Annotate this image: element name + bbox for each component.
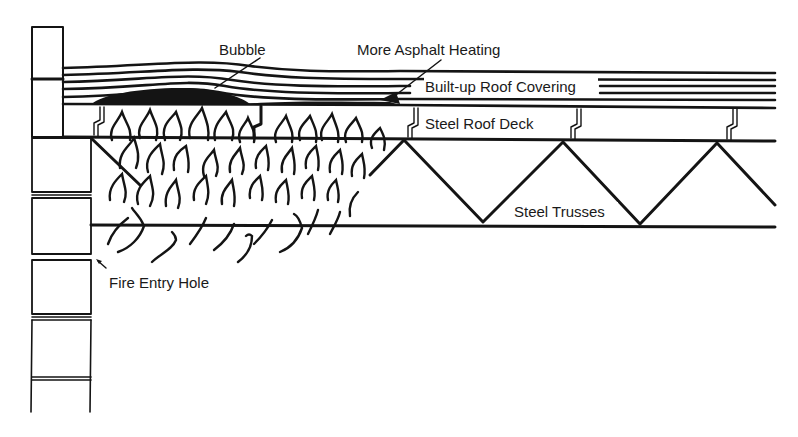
label-steel-roof-deck: Steel Roof Deck (425, 115, 534, 132)
fire-entry-hole (96, 259, 106, 268)
label-more-asphalt-heating: More Asphalt Heating (357, 41, 500, 58)
label-fire-entry-hole: Fire Entry Hole (109, 274, 209, 291)
label-bubble: Bubble (219, 41, 266, 58)
steel-trusses (91, 138, 775, 227)
flames (108, 108, 385, 262)
label-built-up-roof-covering: Built-up Roof Covering (425, 78, 576, 95)
label-steel-trusses: Steel Trusses (514, 203, 605, 220)
roof-fire-diagram: Bubble More Asphalt Heating Built-up Roo… (0, 0, 798, 437)
masonry-wall (31, 27, 91, 412)
steel-roof-deck (63, 106, 775, 141)
